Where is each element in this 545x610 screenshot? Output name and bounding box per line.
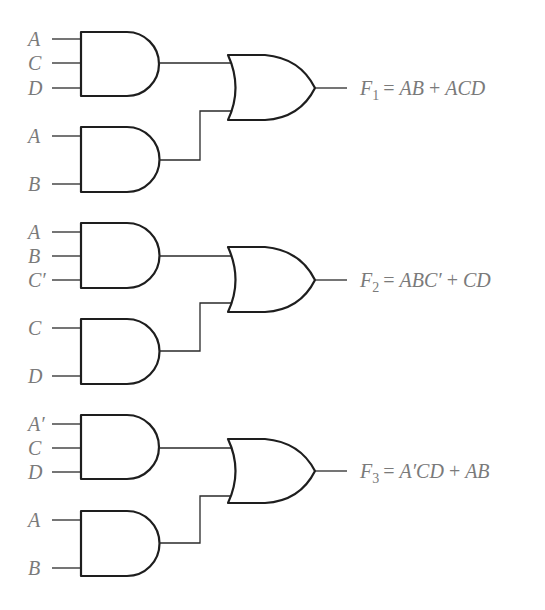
term: A′CD	[398, 460, 445, 482]
input-label: D	[27, 461, 43, 483]
output-subscript: 2	[372, 280, 379, 295]
output-equation-f3: F3= A′CD + AB	[359, 460, 490, 486]
input-label: B	[28, 245, 40, 267]
input-label: C′	[28, 269, 46, 291]
and-gate-shape	[81, 223, 159, 288]
or-gate-f1	[228, 55, 315, 120]
term: AB	[463, 460, 489, 482]
input-label: D	[27, 365, 43, 387]
input-label: C	[28, 52, 42, 74]
input-label: C	[28, 317, 42, 339]
equals-sign: =	[383, 460, 399, 482]
and-to-or-wire	[159, 111, 232, 160]
input-label: A	[26, 509, 41, 531]
and-gate-shape	[81, 32, 159, 96]
input-label: B	[28, 173, 40, 195]
and-to-or-wire	[159, 496, 232, 543]
equals-sign: =	[383, 77, 399, 99]
and-gate-f1-bottom: A B	[26, 125, 159, 195]
and-gate-f2-bottom: C D	[27, 317, 159, 387]
and-gate-f3-top: A′ C D	[26, 413, 159, 483]
output-name: F	[359, 269, 373, 291]
and-to-or-wire	[159, 303, 232, 351]
output-subscript: 1	[372, 88, 379, 103]
plus-sign: +	[442, 269, 463, 291]
input-label: A′	[26, 413, 45, 435]
output-subscript: 3	[372, 471, 379, 486]
input-label: C	[28, 437, 42, 459]
output-equation-f2: F2= ABC′ + CD	[359, 269, 491, 295]
diagram-svg: A C D A B F1= AB + ACD A B C	[0, 0, 545, 610]
term: CD	[463, 269, 491, 291]
plus-sign: +	[424, 77, 445, 99]
plus-sign: +	[444, 460, 465, 482]
or-gate-f2	[228, 247, 315, 312]
and-gate-shape	[81, 127, 159, 192]
output-name: F	[359, 460, 373, 482]
input-label: D	[27, 77, 43, 99]
input-label: B	[28, 557, 40, 579]
circuit-f2: A B C′ C D F2= ABC′ + CD	[26, 221, 491, 387]
term: ACD	[443, 77, 486, 99]
output-equation-f1: F1= AB + ACD	[359, 77, 486, 103]
input-label: A	[26, 125, 41, 147]
or-gate-f3	[228, 439, 315, 503]
and-gate-shape	[81, 511, 159, 576]
input-label: A	[26, 221, 41, 243]
circuit-f1: A C D A B F1= AB + ACD	[26, 28, 486, 195]
input-label: A	[26, 28, 41, 50]
circuit-f3: A′ C D A B F3= A′CD + AB	[26, 413, 490, 579]
output-name: F	[359, 77, 373, 99]
and-gate-f2-top: A B C′	[26, 221, 159, 291]
and-gate-shape	[81, 415, 159, 479]
and-gate-shape	[81, 319, 159, 384]
logic-diagram: A C D A B F1= AB + ACD A B C	[0, 0, 545, 610]
equals-sign: =	[383, 269, 399, 291]
and-gate-f1-top: A C D	[26, 28, 159, 99]
term: ABC′	[398, 269, 443, 291]
and-gate-f3-bottom: A B	[26, 509, 159, 579]
term: AB	[398, 77, 424, 99]
